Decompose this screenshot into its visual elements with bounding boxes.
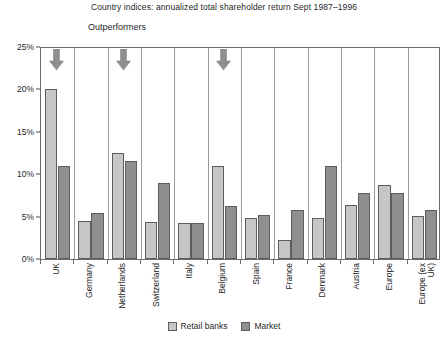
- x-axis-category-label: Germany: [85, 263, 94, 298]
- category-separator-gridline: [374, 48, 375, 259]
- bar-retail-banks-europe: [378, 185, 391, 259]
- x-axis-tick-mark: [207, 260, 208, 264]
- category-separator-gridline: [274, 48, 275, 259]
- bar-retail-banks-netherlands: [112, 153, 125, 259]
- x-axis-category-label: Spain: [252, 263, 261, 285]
- plot-area: [40, 47, 440, 260]
- x-axis-tick-mark: [340, 260, 341, 264]
- y-axis-tick-label: 15%: [0, 127, 34, 137]
- y-axis-tick-label: 25%: [0, 42, 34, 52]
- category-separator-gridline: [174, 48, 175, 259]
- y-axis-tick-label: 5%: [0, 212, 34, 222]
- x-axis-tick-mark: [407, 260, 408, 264]
- category-separator-gridline: [408, 48, 409, 259]
- bar-retail-banks-uk: [45, 89, 58, 259]
- category-separator-gridline: [208, 48, 209, 259]
- category-separator-gridline: [241, 48, 242, 259]
- bar-market-europe: [391, 193, 404, 259]
- x-axis-tick-mark: [173, 260, 174, 264]
- bar-retail-banks-france: [278, 240, 291, 260]
- x-axis-tick-mark: [40, 260, 41, 264]
- x-axis-category-label: Netherlands: [118, 263, 127, 309]
- chart-legend: Retail banksMarket: [0, 321, 448, 331]
- legend-item-retail-banks[interactable]: Retail banks: [168, 321, 228, 331]
- x-axis-tick-mark: [240, 260, 241, 264]
- bar-market-france: [291, 210, 304, 259]
- bar-market-germany: [91, 213, 104, 259]
- category-separator-gridline: [141, 48, 142, 259]
- category-separator-gridline: [341, 48, 342, 259]
- category-separator-gridline: [74, 48, 75, 259]
- x-axis-tick-mark: [107, 260, 108, 264]
- bar-retail-banks-switzerland: [145, 222, 158, 259]
- bar-market-netherlands: [125, 161, 138, 259]
- x-axis-category-label: Europe (ex UK): [418, 263, 436, 305]
- bar-market-belgium: [225, 206, 238, 259]
- x-axis-category-label: France: [285, 263, 294, 289]
- x-axis-category-label: Austria: [352, 263, 361, 289]
- bar-retail-banks-spain: [245, 218, 258, 259]
- bar-retail-banks-belgium: [212, 166, 225, 259]
- bar-market-italy: [191, 223, 204, 259]
- bar-market-uk: [58, 166, 71, 259]
- x-axis-category-label: Denmark: [318, 263, 327, 297]
- legend-swatch-icon: [241, 322, 250, 331]
- y-axis-tick-label: 0%: [0, 254, 34, 264]
- category-separator-gridline: [308, 48, 309, 259]
- y-axis-tick-label: 10%: [0, 169, 34, 179]
- bar-retail-banks-italy: [178, 223, 191, 259]
- x-axis-tick-mark: [373, 260, 374, 264]
- bar-retail-banks-germany: [78, 221, 91, 259]
- bar-market-denmark: [325, 166, 338, 259]
- bar-market-switzerland: [158, 183, 171, 259]
- x-axis-category-label: Switzerland: [152, 263, 161, 307]
- legend-label: Market: [254, 321, 280, 331]
- bar-market-spain: [258, 215, 271, 259]
- bar-retail-banks-denmark: [312, 218, 325, 259]
- chart-title: Country indices: annualized total shareh…: [0, 2, 448, 12]
- legend-swatch-icon: [168, 322, 177, 331]
- x-axis-tick-mark: [140, 260, 141, 264]
- outperformers-annotation-label: Outperformers: [88, 22, 146, 32]
- y-axis-tick-label: 20%: [0, 84, 34, 94]
- bar-retail-banks-austria: [345, 205, 358, 259]
- down-arrow-icon: [216, 49, 231, 71]
- bar-market-austria: [358, 193, 371, 259]
- x-axis-category-label: Europe: [385, 263, 394, 290]
- x-axis-category-label: Belgium: [218, 263, 227, 294]
- x-axis-tick-mark: [307, 260, 308, 264]
- legend-item-market[interactable]: Market: [241, 321, 280, 331]
- category-separator-gridline: [108, 48, 109, 259]
- x-axis-tick-mark: [273, 260, 274, 264]
- down-arrow-icon: [49, 49, 64, 71]
- legend-label: Retail banks: [181, 321, 228, 331]
- bar-market-europe-ex-uk-: [425, 210, 438, 259]
- bar-retail-banks-europe-ex-uk-: [412, 216, 425, 259]
- x-axis-category-label: Italy: [185, 263, 194, 279]
- x-axis-category-label: UK: [52, 263, 61, 275]
- down-arrow-icon: [116, 49, 131, 71]
- x-axis-tick-mark: [73, 260, 74, 264]
